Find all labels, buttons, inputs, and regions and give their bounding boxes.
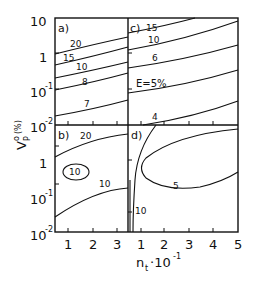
chart-label: -1 [45,189,53,198]
chart-label: 15 [63,53,74,63]
chart-label: -1 [45,82,53,91]
chart-label: b) [58,129,69,142]
chart-label: 1 [64,237,72,252]
chart-label: 2 [89,237,97,252]
chart-label: 3 [113,237,121,252]
chart-label: 3 [185,237,193,252]
chart-label: 1 [39,50,47,65]
chart-label: 10 [148,35,160,45]
x-axis-labels: 1 2 3 1 2 3 4 5 [64,237,242,252]
chart-label: 1 [137,237,145,252]
chart-label: 4 [152,112,158,122]
contour-line [55,100,128,116]
contour-line [55,37,128,54]
chart-label: ·10 [150,255,171,270]
chart-label: 6 [152,53,158,63]
chart-label: 20 [80,131,92,141]
panel-c: c) 15 10 6 E=5% 4 [128,18,238,125]
chart-label: c) [130,22,140,35]
chart-label: 10 [30,14,47,29]
chart-label: 5 [234,237,242,252]
chart-label: (%) [14,120,23,134]
contour-line [55,188,128,217]
chart-label: 8 [82,77,88,87]
chart-label: 10 [135,206,147,216]
chart-label: 10 [76,62,88,72]
chart-label: 20 [70,39,82,49]
chart-label: V [14,141,29,150]
chart-label: 1 [39,156,47,171]
y-axis-labels: 10 1 10 -1 10 -2 1 10 -1 10 -2 [30,14,53,243]
panel-b: b) 20 10 10 [55,129,128,217]
chart-label: -2 [45,225,53,234]
chart-label: -1 [173,252,181,261]
chart-label: -2 [45,117,53,126]
panel-a: a) 20 15 10 8 7 [55,22,128,116]
x-axis-title: n t ·10 -1 [136,252,181,273]
chart-label: a) [58,22,69,35]
chart-label: t [145,264,148,273]
contour-line [128,21,238,50]
chart-label: P [23,136,32,141]
y-axis-title: V o P (%) [12,120,32,150]
panel-d: d) 5 10 [130,125,238,232]
chart-label: 2 [160,237,168,252]
chart-label: 10 [99,179,111,189]
contour-figure: a) 20 15 10 8 7 c) 15 10 6 E=5% 4 b) 20 … [0,0,256,283]
chart-label: 10 [69,167,81,177]
chart-label: o [12,136,21,141]
contour-line [142,129,239,188]
chart-label: d) [131,129,142,142]
chart-label: n [136,255,144,270]
chart-label: 15 [146,23,157,33]
chart-label: 4 [209,237,217,252]
chart-label: 7 [84,99,90,109]
chart-label: E=5% [136,78,167,89]
chart-label: 5 [173,181,179,191]
contour-line [128,45,238,68]
